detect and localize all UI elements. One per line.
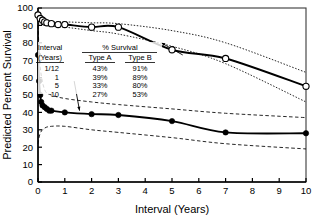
y-axis-title: Predicted Percent Survival <box>1 30 13 160</box>
inset-spanner-header: % Survival <box>102 43 138 52</box>
inset-row-3-interval: 10 <box>51 90 59 99</box>
y-tick-label: 30 <box>22 124 33 135</box>
y-tick-label: 100 <box>17 2 33 13</box>
y-tick-label: 20 <box>22 142 33 153</box>
survival-curve-chart: 0102030405060708090100012345678910Interv… <box>0 0 318 220</box>
series-line-ci-5 <box>38 126 306 149</box>
x-tick-label: 3 <box>116 185 121 196</box>
y-tick-label: 40 <box>22 107 33 118</box>
x-tick-label: 9 <box>277 185 282 196</box>
inset-row-3-type-b: 53% <box>132 90 147 99</box>
x-tick-label: 7 <box>223 185 228 196</box>
data-point-type-a <box>116 112 121 117</box>
data-point-type-a <box>169 118 174 123</box>
inset-col2-header: Type A <box>89 53 112 62</box>
inset-col3-header: Type B <box>128 53 151 62</box>
data-point-type-b <box>55 21 61 27</box>
data-point-type-b <box>89 24 95 30</box>
y-tick-label: 60 <box>22 72 33 83</box>
type-a-pointer-head <box>77 107 80 111</box>
y-tick-label: 10 <box>22 159 33 170</box>
x-tick-label: 1 <box>62 185 67 196</box>
x-tick-label: 10 <box>301 185 312 196</box>
data-point-type-a <box>62 110 67 115</box>
data-point-type-a <box>89 111 94 116</box>
data-point-type-b <box>223 55 229 61</box>
x-tick-label: 4 <box>143 185 148 196</box>
y-tick-label: 70 <box>22 55 33 66</box>
chart-container: 0102030405060708090100012345678910Interv… <box>0 0 318 220</box>
inset-col1-header-line2: (Years) <box>38 53 62 62</box>
data-point-type-a <box>223 130 228 135</box>
y-tick-label: 50 <box>22 89 33 100</box>
inset-col1-header-line1: Interval <box>38 43 63 52</box>
data-point-type-a <box>303 131 308 136</box>
data-point-type-b <box>303 83 309 89</box>
data-point-type-b <box>169 47 175 53</box>
plot-frame <box>38 8 306 182</box>
y-tick-label: 90 <box>22 20 33 31</box>
x-tick-label: 6 <box>196 185 201 196</box>
x-axis-title: Interval (Years) <box>135 203 209 215</box>
inset-row-3-type-a: 27% <box>92 90 107 99</box>
data-point-type-b <box>48 21 54 27</box>
y-tick-label: 80 <box>22 37 33 48</box>
x-tick-label: 0 <box>35 185 40 196</box>
data-point-type-b <box>115 24 121 30</box>
data-point-type-b <box>62 21 68 27</box>
x-tick-label: 2 <box>89 185 94 196</box>
x-tick-label: 8 <box>250 185 255 196</box>
x-tick-label: 5 <box>169 185 174 196</box>
data-point-type-a <box>49 108 54 113</box>
y-tick-label: 0 <box>28 176 33 187</box>
